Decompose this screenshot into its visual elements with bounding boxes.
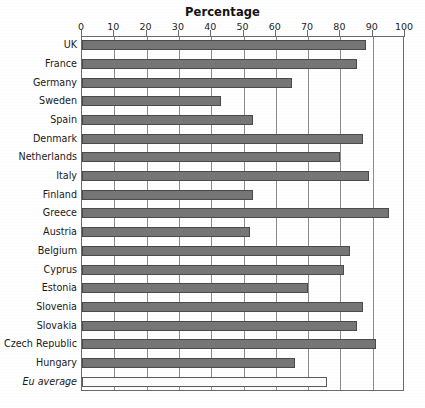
bar-row: Greece xyxy=(0,204,425,223)
bar-denmark xyxy=(82,134,363,144)
chart-title: Percentage xyxy=(0,5,425,19)
bar-row: UK xyxy=(0,36,425,55)
bar-germany xyxy=(82,78,292,88)
bar-track xyxy=(82,148,403,167)
bar-track xyxy=(82,223,403,242)
bar-france xyxy=(82,59,357,69)
bar-track xyxy=(82,204,403,223)
bar-row: Cyprus xyxy=(0,260,425,279)
category-label-estonia: Estonia xyxy=(0,283,77,293)
bar-row: Italy xyxy=(0,167,425,186)
bar-track xyxy=(82,316,403,335)
bar-sweden xyxy=(82,96,221,106)
category-label-slovakia: Slovakia xyxy=(0,321,77,331)
bar-track xyxy=(82,354,403,373)
bar-netherlands xyxy=(82,152,340,162)
bar-row: Hungary xyxy=(0,354,425,373)
bar-hungary xyxy=(82,358,295,368)
bar-track xyxy=(82,242,403,261)
category-label-austria: Austria xyxy=(0,227,77,237)
bar-row: Austria xyxy=(0,223,425,242)
bar-track xyxy=(82,167,403,186)
category-label-finland: Finland xyxy=(0,190,77,200)
bar-row: Estonia xyxy=(0,279,425,298)
bar-austria xyxy=(82,227,250,237)
bar-row: Finland xyxy=(0,185,425,204)
bar-track xyxy=(82,279,403,298)
bar-track xyxy=(82,129,403,148)
bar-track xyxy=(82,260,403,279)
category-label-czech-republic: Czech Republic xyxy=(0,339,77,349)
bar-track xyxy=(82,335,403,354)
category-label-uk: UK xyxy=(0,40,77,50)
bar-row: Spain xyxy=(0,111,425,130)
bar-row: Czech Republic xyxy=(0,335,425,354)
bar-rows: UKFranceGermanySwedenSpainDenmarkNetherl… xyxy=(0,36,425,391)
category-label-cyprus: Cyprus xyxy=(0,265,77,275)
bar-czech-republic xyxy=(82,339,376,349)
bar-row: France xyxy=(0,55,425,74)
bar-chart: Percentage 0102030405060708090100 UKFran… xyxy=(0,0,425,408)
category-label-greece: Greece xyxy=(0,208,77,218)
category-label-netherlands: Netherlands xyxy=(0,152,77,162)
bar-row: Eu average xyxy=(0,372,425,391)
bar-belgium xyxy=(82,246,350,256)
bar-row: Slovakia xyxy=(0,316,425,335)
bar-finland xyxy=(82,190,253,200)
bar-track xyxy=(82,55,403,74)
bar-cyprus xyxy=(82,265,344,275)
bar-slovakia xyxy=(82,321,357,331)
bar-track xyxy=(82,372,403,391)
category-label-slovenia: Slovenia xyxy=(0,302,77,312)
bar-uk xyxy=(82,40,366,50)
bar-track xyxy=(82,298,403,317)
category-label-hungary: Hungary xyxy=(0,358,77,368)
bar-row: Netherlands xyxy=(0,148,425,167)
bar-track xyxy=(82,92,403,111)
category-label-sweden: Sweden xyxy=(0,96,77,106)
category-label-eu-average: Eu average xyxy=(0,377,77,387)
bar-row: Denmark xyxy=(0,129,425,148)
bar-estonia xyxy=(82,283,308,293)
bar-track xyxy=(82,185,403,204)
bar-eu-average xyxy=(82,377,327,387)
bar-track xyxy=(82,111,403,130)
bar-row: Slovenia xyxy=(0,298,425,317)
bar-row: Germany xyxy=(0,73,425,92)
category-label-france: France xyxy=(0,59,77,69)
bar-slovenia xyxy=(82,302,363,312)
bar-italy xyxy=(82,171,369,181)
bar-track xyxy=(82,36,403,55)
category-label-italy: Italy xyxy=(0,171,77,181)
category-label-spain: Spain xyxy=(0,115,77,125)
bar-row: Belgium xyxy=(0,242,425,261)
category-label-denmark: Denmark xyxy=(0,134,77,144)
category-label-germany: Germany xyxy=(0,78,77,88)
bar-greece xyxy=(82,208,389,218)
bar-track xyxy=(82,73,403,92)
bar-row: Sweden xyxy=(0,92,425,111)
bar-spain xyxy=(82,115,253,125)
category-label-belgium: Belgium xyxy=(0,246,77,256)
